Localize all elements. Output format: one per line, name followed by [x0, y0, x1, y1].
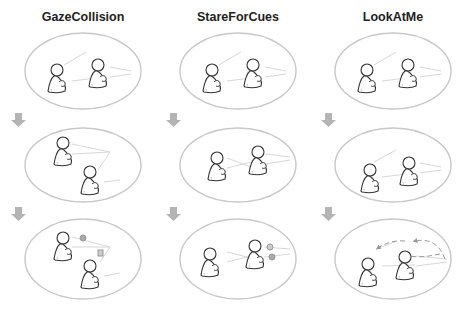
- scene-ellipse: [335, 33, 451, 109]
- scene-ellipse: [335, 128, 451, 202]
- scene-ellipse: [335, 219, 451, 299]
- diagram-canvas: [0, 0, 472, 315]
- scene-ellipse: [180, 33, 296, 109]
- down-arrow-icon: [11, 113, 336, 221]
- scene-ellipse: [25, 33, 141, 109]
